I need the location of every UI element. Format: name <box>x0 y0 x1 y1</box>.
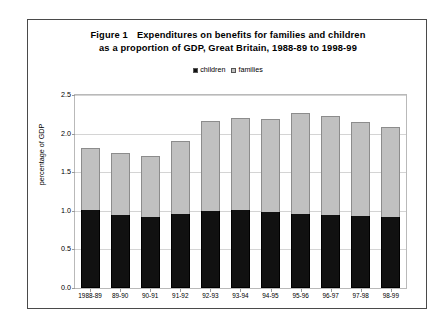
x-tick-label: 97-98 <box>353 292 369 299</box>
bar-segment-children[interactable] <box>291 214 310 288</box>
x-tick-label: 92-93 <box>202 292 218 299</box>
bar-group[interactable]: 90-91 <box>141 95 160 288</box>
bar-segment-children[interactable] <box>351 216 370 288</box>
y-tick-label: 0.0 <box>41 284 71 291</box>
x-tick-label: 89-90 <box>112 292 128 299</box>
x-tick-label: 1988-89 <box>78 292 101 299</box>
bar-segment-families[interactable] <box>141 156 160 217</box>
bar-segment-families[interactable] <box>171 141 190 214</box>
bar-segment-children[interactable] <box>261 212 280 288</box>
x-tick-label: 93-94 <box>232 292 248 299</box>
x-tick-label: 98-99 <box>383 292 399 299</box>
bar-segment-children[interactable] <box>321 215 340 288</box>
y-tick-label: 1.5 <box>41 168 71 175</box>
bar-group[interactable]: 91-92 <box>171 95 190 288</box>
bar-segment-children[interactable] <box>381 217 400 288</box>
x-tick-label: 95-96 <box>292 292 308 299</box>
y-tick-mark <box>72 288 75 289</box>
bar-group[interactable]: 97-98 <box>351 95 370 288</box>
bar-group[interactable]: 1988-89 <box>81 95 100 288</box>
bar-group[interactable]: 93-94 <box>231 95 250 288</box>
bar-segment-families[interactable] <box>81 148 100 211</box>
plot-area: 2.52.01.51.00.50.0 1988-8989-9090-9191-9… <box>74 94 407 289</box>
bar-segment-children[interactable] <box>111 215 130 288</box>
figure-frame: Figure 1Expenditures on benefits for fam… <box>27 19 427 309</box>
x-tick-label: 94-95 <box>262 292 278 299</box>
bar-group[interactable]: 98-99 <box>381 95 400 288</box>
bar-group[interactable]: 96-97 <box>321 95 340 288</box>
y-tick-label: 2.0 <box>41 130 71 137</box>
x-tick-label: 96-97 <box>322 292 338 299</box>
y-tick-label: 0.5 <box>41 245 71 252</box>
x-tick-label: 90-91 <box>142 292 158 299</box>
bar-segment-children[interactable] <box>81 210 100 288</box>
bar-segment-children[interactable] <box>201 211 220 288</box>
plot-wrapper: percentage of GDP 2.52.01.51.00.50.0 198… <box>28 20 428 310</box>
bar-segment-families[interactable] <box>261 119 280 212</box>
y-tick-label: 2.5 <box>41 91 71 98</box>
bar-group[interactable]: 95-96 <box>291 95 310 288</box>
bar-segment-families[interactable] <box>381 127 400 217</box>
bar-segment-families[interactable] <box>111 153 130 215</box>
y-axis-title: percentage of GDP <box>37 90 46 220</box>
bar-segment-families[interactable] <box>321 116 340 215</box>
bar-segment-families[interactable] <box>291 113 310 214</box>
bar-group[interactable]: 92-93 <box>201 95 220 288</box>
x-tick-label: 91-92 <box>172 292 188 299</box>
bar-segment-children[interactable] <box>141 217 160 288</box>
y-tick-label: 1.0 <box>41 207 71 214</box>
bar-series-container: 1988-8989-9090-9191-9292-9393-9494-9595-… <box>75 95 406 288</box>
bar-segment-families[interactable] <box>201 121 220 211</box>
bar-group[interactable]: 89-90 <box>111 95 130 288</box>
bar-segment-children[interactable] <box>171 214 190 288</box>
bar-segment-families[interactable] <box>231 118 250 210</box>
bar-segment-children[interactable] <box>231 210 250 288</box>
bar-group[interactable]: 94-95 <box>261 95 280 288</box>
bar-segment-families[interactable] <box>351 122 370 216</box>
